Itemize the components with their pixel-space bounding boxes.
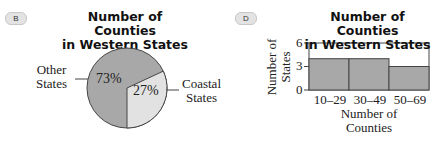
xtick-10-29: 10–29 bbox=[310, 93, 350, 107]
ytick-3: 3 bbox=[296, 59, 303, 73]
bar-10-29 bbox=[309, 59, 349, 90]
bar-50-69 bbox=[389, 67, 429, 91]
pct-coastal-states: 27% bbox=[133, 84, 159, 98]
bar-30-49 bbox=[349, 59, 389, 90]
xtick-50-69: 50–69 bbox=[390, 93, 430, 107]
label-coastal-states: Coastal States bbox=[182, 77, 221, 105]
bar-title-line-2: in Western States bbox=[300, 38, 435, 52]
xtick-30-49: 30–49 bbox=[350, 93, 390, 107]
label-other-states: Other States bbox=[36, 63, 67, 91]
bar-chart-title: Number of Counties in Western States bbox=[300, 10, 435, 52]
ytick-0: 0 bbox=[296, 83, 303, 97]
ytick-6: 6 bbox=[296, 36, 303, 50]
option-d-badge[interactable]: D bbox=[235, 12, 257, 25]
bar-title-line-1: Number of Counties bbox=[300, 10, 435, 38]
pie-chart bbox=[75, 48, 179, 128]
y-axis-label-line-2: States bbox=[278, 51, 293, 82]
math-chart-options: B Number of Counties in Western States N… bbox=[0, 0, 439, 142]
pct-other-states: 73% bbox=[96, 72, 122, 86]
x-axis-label: Number of Counties bbox=[329, 107, 409, 135]
y-axis-label-line-1: Number of bbox=[264, 38, 279, 95]
